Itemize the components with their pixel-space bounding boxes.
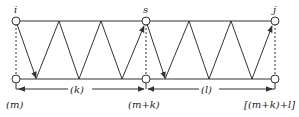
position-start: (m) bbox=[6, 99, 23, 110]
position-mid: (m+k) bbox=[128, 99, 160, 110]
node-top-left bbox=[12, 17, 20, 25]
zigzag-diagram: i s j (k) (l) (m) (m+k) [(m+k)+l] bbox=[0, 0, 299, 117]
interval-l-label: (l) bbox=[201, 84, 212, 95]
tick-right bbox=[271, 83, 275, 89]
node-bottom-right bbox=[271, 75, 279, 83]
node-bottom-left bbox=[12, 75, 20, 83]
node-bottom-mid bbox=[142, 75, 150, 83]
node-top-right bbox=[271, 17, 279, 25]
label-i: i bbox=[14, 4, 17, 15]
zigzag-first bbox=[17, 21, 144, 79]
position-end: [(m+k)+l] bbox=[244, 99, 295, 110]
label-s: s bbox=[143, 4, 148, 15]
interval-k-label: (k) bbox=[70, 84, 84, 95]
zigzag-second bbox=[147, 21, 272, 79]
tick-left bbox=[16, 83, 20, 89]
label-j: j bbox=[271, 4, 276, 15]
node-top-mid bbox=[142, 17, 150, 25]
